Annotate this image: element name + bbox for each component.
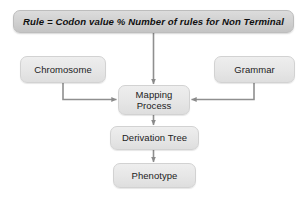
node-chromosome-label: Chromosome <box>34 64 92 76</box>
connector-grammar-to-mapping <box>192 83 255 100</box>
node-mapping-process: Mapping Process <box>118 85 190 115</box>
node-grammar: Grammar <box>214 56 295 83</box>
rule-banner-label: Rule = Codon value % Number of rules for… <box>23 16 284 27</box>
node-mapping-process-label: Mapping Process <box>136 89 173 112</box>
node-derivation-tree-label: Derivation Tree <box>122 132 187 144</box>
connector-chromosome-to-mapping <box>63 83 117 100</box>
rule-banner: Rule = Codon value % Number of rules for… <box>13 10 294 33</box>
node-phenotype: Phenotype <box>113 163 196 188</box>
diagram-canvas: Rule = Codon value % Number of rules for… <box>0 0 306 204</box>
node-chromosome: Chromosome <box>20 56 106 83</box>
node-grammar-label: Grammar <box>234 64 274 76</box>
node-derivation-tree: Derivation Tree <box>110 126 199 150</box>
node-phenotype-label: Phenotype <box>132 170 178 182</box>
